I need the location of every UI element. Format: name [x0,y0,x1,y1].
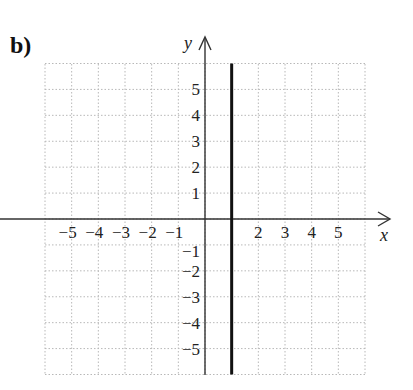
y-tick-label: 2 [192,158,201,177]
x-axis-label: x [379,225,388,245]
y-tick-label: 5 [192,80,201,99]
y-tick-label: −1 [182,242,200,261]
x-tick-label: 5 [334,223,343,242]
x-tick-label: −4 [85,223,104,242]
x-tick-label: −2 [139,223,157,242]
y-axis-label: y [182,33,192,53]
y-tick-label: −4 [182,314,201,333]
y-tick-label: −5 [182,340,200,359]
x-tick-label: 2 [254,223,263,242]
x-tick-label: −5 [59,223,77,242]
x-tick-label: −3 [112,223,130,242]
x-tick-label: −1 [165,223,183,242]
y-tick-label: −2 [182,262,200,281]
coordinate-plane: −5−4−3−2−1234554321−1−2−3−4−5 x y [0,0,413,390]
y-tick-label: −3 [182,288,200,307]
y-tick-label: 4 [192,106,201,125]
y-tick-label: 1 [192,184,201,203]
x-tick-label: 3 [281,223,290,242]
x-tick-label: 4 [307,223,316,242]
y-tick-label: 3 [192,132,201,151]
